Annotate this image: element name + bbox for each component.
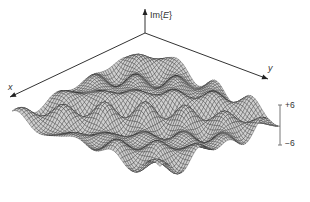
scale-bar-top-label: +6 <box>285 101 295 110</box>
surface-plot: Im{E} x y +6 −6 <box>0 0 310 202</box>
z-axis-arrow-icon <box>143 9 148 15</box>
z-label-prefix: Im{ <box>150 10 163 20</box>
z-axis-label: Im{E} <box>150 11 172 20</box>
wireframe-mesh <box>12 54 280 174</box>
scale-bar-bottom-label: −6 <box>285 139 295 148</box>
y-axis-arrow-icon <box>262 75 268 80</box>
scale-bar <box>278 105 282 145</box>
x-axis-label: x <box>8 83 13 92</box>
surface-plot-canvas <box>0 0 310 202</box>
y-axis-label: y <box>268 64 273 73</box>
z-label-suffix: } <box>169 10 172 20</box>
